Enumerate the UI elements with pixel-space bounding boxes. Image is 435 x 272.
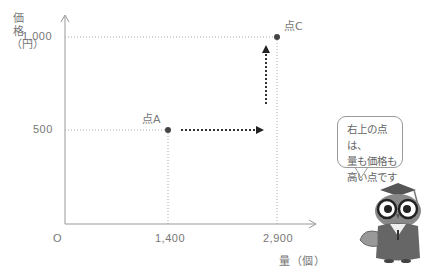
owl-professor-icon (360, 183, 421, 263)
point-a-marker (165, 127, 171, 133)
callout-line-1: 右上の点は、 (347, 121, 402, 153)
point-c-marker (274, 34, 280, 40)
arrow-right-head-icon (256, 126, 264, 134)
point-a-label: 点A (142, 110, 161, 126)
y-tick-500: 500 (33, 123, 53, 135)
x-axis-label: 量（個） (279, 252, 325, 268)
callout-line-2: 量も価格も (347, 153, 402, 169)
point-c-label: 点C (284, 17, 303, 33)
origin-label: O (53, 232, 62, 244)
callout-bubble: 右上の点は、 量も価格も 高い点です (337, 116, 403, 168)
callout-line-3: 高い点です (347, 169, 402, 185)
y-tick-1000: 1,000 (22, 30, 52, 42)
arrow-up-head-icon (262, 45, 270, 53)
x-tick-2900: 2,900 (263, 232, 293, 244)
x-tick-1400: 1,400 (155, 232, 185, 244)
